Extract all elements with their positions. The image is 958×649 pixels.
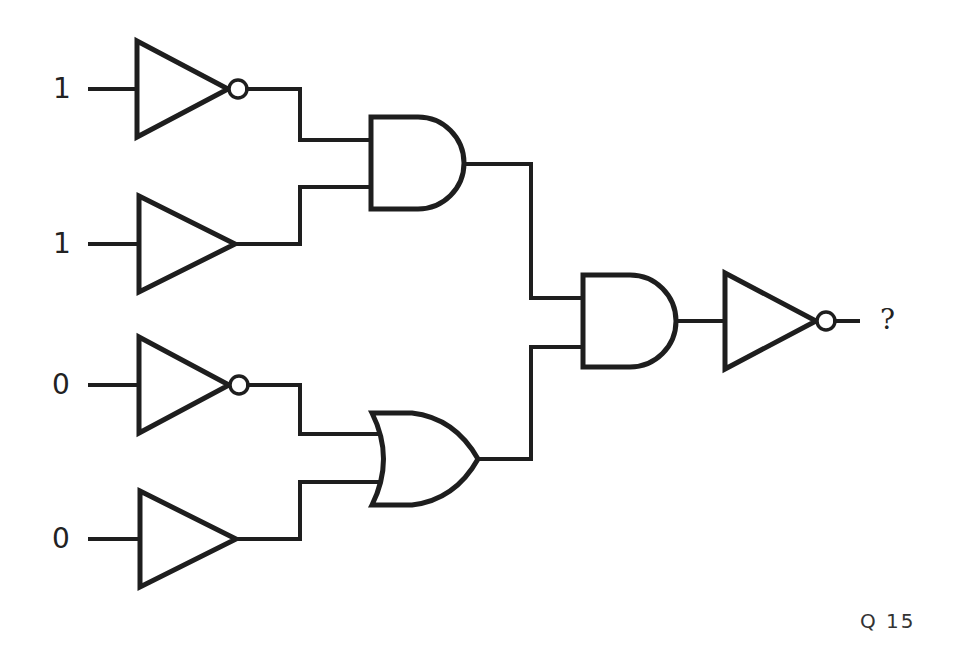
wire-not3-to-or1 — [248, 385, 386, 434]
not-gate-3 — [139, 337, 248, 433]
input-label-3: 0 — [52, 371, 70, 399]
input-label-1: 1 — [53, 75, 71, 103]
wire-not1-to-and1 — [247, 89, 371, 140]
not-gate-1 — [137, 41, 247, 137]
wire-and1-to-and2 — [464, 164, 583, 298]
logic-circuit-diagram: 1 1 0 0 ? Q 15 — [0, 0, 958, 649]
wire-buf2-to-and1 — [235, 187, 371, 244]
and-gate-2 — [583, 275, 676, 367]
question-label: Q 15 — [860, 611, 916, 631]
output-label: ? — [880, 306, 895, 334]
not-gate-output — [725, 273, 835, 369]
and-gate-1 — [371, 117, 464, 209]
wire-buf4-to-or1 — [236, 482, 386, 539]
buffer-gate-2 — [139, 196, 235, 292]
buffer-gate-4 — [140, 491, 236, 587]
input-label-2: 1 — [53, 230, 71, 258]
or-gate-1 — [372, 413, 478, 505]
input-label-4: 0 — [52, 525, 70, 553]
wire-or1-to-and2 — [478, 347, 583, 459]
